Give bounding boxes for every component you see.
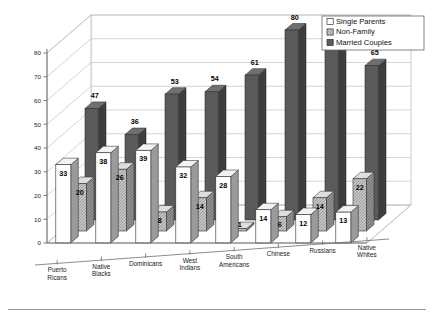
bar-chart: 01020304050607080 PuertoRicansNativeBlac… [0, 0, 434, 320]
value-label-single-parents: 13 [339, 216, 347, 225]
value-label-single-parents: 28 [219, 181, 227, 190]
x-category-label: Native [358, 244, 377, 251]
bottom-divider [8, 309, 426, 310]
value-label-single-parents: 32 [179, 171, 187, 180]
y-axis: 01020304050607080 [34, 49, 47, 246]
value-label-married-couples: 54 [211, 74, 219, 83]
value-label-non-family: 22 [356, 183, 364, 192]
legend-label: Married Couples [336, 38, 392, 47]
legend-swatch [327, 18, 333, 24]
y-tick-label: 60 [34, 97, 41, 104]
x-category-label: Dominicans [129, 260, 162, 267]
value-label-non-family: 1 [238, 220, 242, 229]
value-label-married-couples: 53 [171, 77, 179, 86]
value-label-non-family: 14 [196, 202, 204, 211]
value-label-single-parents: 14 [259, 214, 267, 223]
x-category-label: Puerto [48, 266, 67, 273]
value-label-married-couples: 47 [91, 91, 99, 100]
value-label-non-family: 8 [158, 216, 162, 225]
value-label-married-couples: 80 [291, 13, 299, 22]
x-category-label: South [226, 253, 243, 260]
value-label-married-couples: 61 [251, 58, 259, 67]
x-category-label: Ricans [47, 274, 67, 281]
value-label-non-family: 14 [316, 202, 324, 211]
y-tick-label: 10 [34, 216, 41, 223]
value-label-single-parents: 12 [299, 219, 307, 228]
x-category-label: Chinese [267, 250, 291, 257]
x-category-label: Indians [180, 264, 201, 271]
y-tick-label: 70 [34, 73, 41, 80]
value-label-non-family: 6 [278, 220, 282, 229]
value-label-single-parents: 38 [99, 157, 107, 166]
x-category-label: Americans [219, 261, 249, 268]
legend-label: Non-Family [336, 27, 375, 36]
value-label-non-family: 20 [76, 188, 84, 197]
x-category-label: Russians [309, 247, 335, 254]
y-tick-label: 50 [34, 121, 41, 128]
x-category-label: Native [92, 263, 111, 270]
y-tick-label: 80 [34, 49, 41, 56]
x-category-label: Blacks [92, 270, 111, 277]
chart-legend: Single ParentsNon-FamilyMarried Couples [322, 16, 424, 50]
y-tick-label: 30 [34, 168, 41, 175]
chart-canvas: 01020304050607080 PuertoRicansNativeBlac… [0, 0, 434, 320]
value-label-non-family: 26 [116, 173, 124, 182]
legend-swatch [327, 29, 333, 35]
x-category-label: Whites [357, 251, 377, 258]
y-tick-label: 0 [38, 239, 42, 246]
x-category-label: West [183, 257, 198, 264]
legend-label: Single Parents [336, 17, 386, 26]
value-label-single-parents: 39 [139, 154, 147, 163]
legend-swatch [327, 39, 333, 45]
value-label-married-couples: 36 [131, 117, 139, 126]
y-tick-label: 40 [34, 144, 41, 151]
value-label-single-parents: 33 [59, 169, 67, 178]
y-tick-label: 20 [34, 192, 41, 199]
